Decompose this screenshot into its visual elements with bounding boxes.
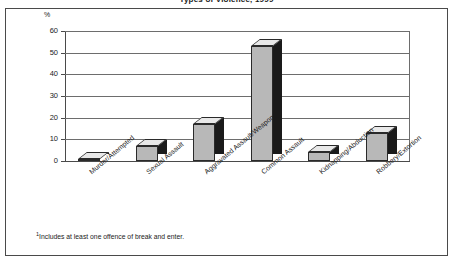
gridline bbox=[65, 53, 410, 54]
gridline bbox=[65, 96, 410, 97]
y-axis-unit-label: % bbox=[44, 11, 50, 18]
y-tick-label: 20 bbox=[36, 113, 58, 122]
y-tick-label: 30 bbox=[36, 91, 58, 100]
y-tick-label: 10 bbox=[36, 134, 58, 143]
y-tick-label: 40 bbox=[36, 69, 58, 78]
x-axis-labels: Murder/AttemptedSexual AssaultAggravated… bbox=[0, 162, 453, 222]
footnote-text: Includes at least one offence of break a… bbox=[39, 233, 184, 240]
gridline bbox=[65, 31, 410, 32]
chart-footnote: 1Includes at least one offence of break … bbox=[36, 231, 184, 240]
bar-side-face bbox=[273, 39, 282, 154]
bar-front-face bbox=[193, 124, 215, 161]
bar-front-face bbox=[366, 133, 388, 161]
gridline bbox=[65, 118, 410, 119]
gridline bbox=[65, 74, 410, 75]
chart-screenshot: Types of Violence, 1999 % 6050403020100 … bbox=[0, 0, 453, 264]
bar-front-face bbox=[251, 46, 273, 161]
bar-front-face bbox=[308, 152, 330, 161]
y-tick-label: 50 bbox=[36, 48, 58, 57]
y-tick-label: 60 bbox=[36, 26, 58, 35]
chart-title: Types of Violence, 1999 bbox=[0, 0, 453, 4]
bar-front-face bbox=[136, 146, 158, 161]
